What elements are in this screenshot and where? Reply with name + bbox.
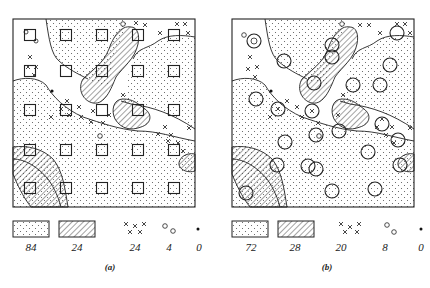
legend-item-hatched [278, 221, 314, 237]
legend-value: 8 [382, 241, 388, 253]
legend-value: 0 [196, 241, 202, 253]
panel-a-map [13, 19, 195, 207]
panel-caption: (b) [322, 262, 333, 272]
legend-item-open-circles [163, 224, 176, 234]
legend-item-stippled [232, 221, 268, 237]
legend-value: 0 [418, 241, 424, 253]
legend-value: 28 [290, 241, 302, 253]
solid-dot-marker [50, 89, 53, 92]
legend-item-stippled [13, 221, 49, 237]
legend-value: 84 [26, 241, 38, 253]
legend-value: 24 [130, 241, 142, 253]
legend-item-crosses [124, 222, 146, 234]
legend-item-crosses [339, 222, 361, 234]
legend-value: 72 [246, 241, 258, 253]
legend-item-hatched [59, 221, 95, 237]
panel-b-map [232, 19, 414, 207]
legend-value: 20 [336, 241, 348, 253]
legend-value: 24 [72, 241, 84, 253]
legend-a [13, 221, 200, 237]
figure-canvas: 84 24 24 4 0 (a) 72 28 20 8 0 (b) [0, 0, 430, 288]
legend-b-values: 72 28 20 8 0 (b) [246, 241, 425, 272]
panel-caption: (a) [105, 262, 116, 272]
legend-item-open-circles [385, 223, 397, 235]
solid-dot-marker [269, 89, 272, 92]
legend-item-dot [420, 228, 423, 231]
legend-a-values: 84 24 24 4 0 (a) [26, 241, 203, 272]
legend-value: 4 [166, 241, 172, 253]
legend-item-dot [197, 228, 200, 231]
legend-b [232, 221, 423, 237]
